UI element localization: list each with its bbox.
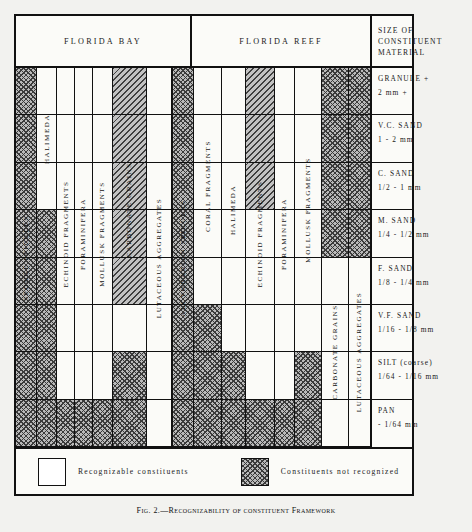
size-row: F. SAND1/8 - 1/4 mm [372,258,412,305]
matrix-cell [222,400,245,447]
matrix-cell [16,305,36,352]
matrix-cell [57,352,74,399]
matrix-cell [93,68,112,115]
matrix-cell [75,68,92,115]
matrix-cell [37,68,56,115]
matrix-cell [173,400,193,447]
matrix-cell [275,258,294,305]
matrix-cell [16,258,36,305]
matrix-cell [113,400,146,447]
size-row-name: F. SAND [378,262,412,276]
matrix-cell [295,68,322,115]
matrix-cell [147,258,171,305]
matrix-cell [147,352,171,399]
header-florida-bay: FLORIDA BAY [16,16,192,66]
matrix-cell [93,115,112,162]
matrix-cell [295,210,322,257]
matrix-cell [75,400,92,447]
matrix-cell [322,68,347,115]
matrix-column: ECHINOID FRAGMENTS [246,68,275,447]
matrix-cell [113,258,146,305]
matrix-cell [113,115,146,162]
matrix-cell [75,163,92,210]
matrix-cell [57,305,74,352]
legend-item-not-recognized: Constituents not recognized [241,458,400,486]
matrix-cell [295,305,322,352]
matrix-cell [37,305,56,352]
matrix-cell [194,68,221,115]
matrix-cell [75,352,92,399]
matrix-cell [16,163,36,210]
size-row-name: M. SAND [378,214,412,228]
matrix-cell [147,305,171,352]
matrix-cell [349,210,370,257]
legend-item-recognizable: Recognizable constituents [38,458,189,486]
matrix-cell [75,115,92,162]
size-row-range: 1/4 - 1/2 mm [378,228,412,242]
matrix-cell [16,115,36,162]
size-row-name: PAN [378,404,412,418]
size-row-name: C. SAND [378,167,412,181]
matrix-cell [173,258,193,305]
matrix-cell [147,400,171,447]
matrix-cell [93,163,112,210]
matrix-cell [295,163,322,210]
matrix-cell [93,258,112,305]
matrix-column: HALIMEDA [222,68,246,447]
matrix-cell [37,400,56,447]
matrix-cell [322,352,347,399]
matrix-cell [173,352,193,399]
matrix-cell [75,210,92,257]
matrix-cell [16,400,36,447]
matrix-column: CARBONATE GRAINS [322,68,348,447]
size-row-range: 2 mm + [378,86,412,100]
matrix-cell [57,68,74,115]
figure: FLORIDA BAY FLORIDA REEF SIZE OFCONSTITU… [14,14,414,496]
matrix-cell [275,210,294,257]
matrix-cell [147,210,171,257]
matrix-cell [173,68,193,115]
matrix-cell [113,68,146,115]
matrix-cell [349,305,370,352]
matrix-cell [322,400,347,447]
matrix-cell [16,352,36,399]
size-row-range: - 1/64 mm [378,418,412,432]
matrix-cell [194,210,221,257]
legend-swatch-recognizable [38,458,66,486]
matrix-cell [113,305,146,352]
matrix-cell [295,258,322,305]
matrix-cell [93,210,112,257]
chart-table: FLORIDA BAY FLORIDA REEF SIZE OFCONSTITU… [14,14,414,496]
matrix-cell [246,163,274,210]
matrix-cell [93,400,112,447]
header-size-of-constituent-material: SIZE OFCONSTITUENTMATERIAL [372,16,412,66]
matrix-cell [295,400,322,447]
matrix-cell [222,258,245,305]
matrix-cell [16,68,36,115]
matrix-cell [173,210,193,257]
matrix-column: MOLLUSK FRAGMENTS [93,68,113,447]
matrix-cell [275,352,294,399]
matrix-column: LUTACEOUS AGGREGATES [147,68,173,447]
matrix-cell [349,258,370,305]
legend: Recognizable constituents Constituents n… [16,447,412,494]
size-row-range: 1 - 2 mm [378,133,412,147]
matrix-cell [75,305,92,352]
matrix-column: SPONGE SPICULES [16,68,37,447]
matrix-cell [246,115,274,162]
matrix-cell [173,305,193,352]
matrix-cell [295,115,322,162]
size-row-range: 1/16 - 1/8 mm [378,323,412,337]
matrix-cell [194,163,221,210]
matrix-cell [275,115,294,162]
matrix-cell [113,210,146,257]
legend-label-recognizable: Recognizable constituents [78,467,189,476]
matrix-cell [322,258,347,305]
matrix-cell [113,163,146,210]
matrix-column: ECHINOID FRAGMENTS [57,68,75,447]
matrix-cell [37,258,56,305]
header-size-label: SIZE OFCONSTITUENTMATERIAL [378,25,442,58]
matrix-cell [275,305,294,352]
matrix-column: CORAL FRAGMENTS [194,68,222,447]
size-row-name: V.F. SAND [378,309,412,323]
